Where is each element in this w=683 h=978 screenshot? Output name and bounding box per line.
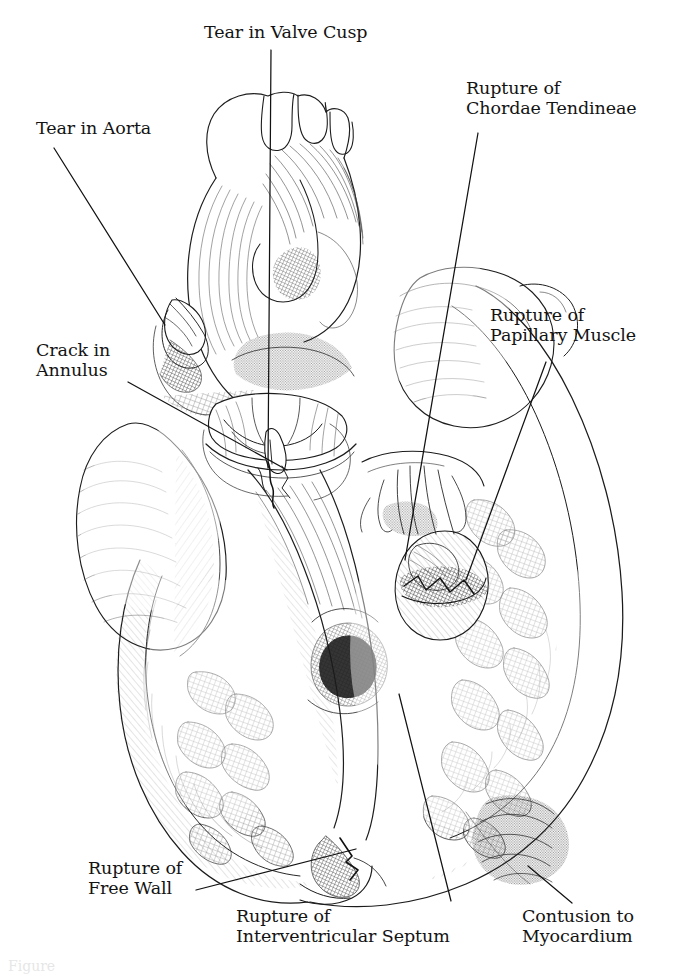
aorta-group [188,92,363,408]
aortic-valve-group [203,393,356,508]
label-tear-in-valve-cusp: Tear in Valve Cusp [204,22,367,42]
heart-illustration [0,0,683,978]
apex-and-free-wall-rupture [300,836,386,904]
leader-line-tear-in-aorta [54,148,165,325]
label-contusion-to-myocardium: Contusion to Myocardium [522,906,634,947]
label-rupture-of-free-wall: Rupture of Free Wall [88,858,182,899]
myocardial-contusion [466,795,569,885]
figure-caption: Figure [8,958,55,974]
label-rupture-of-papillary-muscle: Rupture of Papillary Muscle [490,305,636,346]
label-rupture-of-interventricular-septum: Rupture of Interventricular Septum [236,906,450,947]
label-tear-in-aorta: Tear in Aorta [36,118,151,138]
figure-page: Tear in Aorta Tear in Valve Cusp Rupture… [0,0,683,978]
label-crack-in-annulus: Crack in Annulus [36,340,110,381]
label-rupture-of-chordae-tendineae: Rupture of Chordae Tendineae [466,78,637,119]
